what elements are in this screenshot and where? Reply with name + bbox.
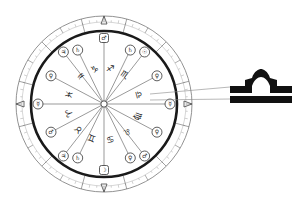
cusp-line <box>107 106 157 133</box>
gemini-sign-icon: ♊ <box>86 132 97 144</box>
cusp-marker-icon: ♂ <box>140 151 150 161</box>
cusp-marker-icon: ♀ <box>152 127 162 137</box>
cusp-marker-icon: ☉ <box>140 47 150 57</box>
cusp-marker-icon: ♄ <box>125 45 135 55</box>
pisces-sign-icon: ♓ <box>63 89 75 99</box>
svg-text:☿: ☿ <box>168 100 172 107</box>
cusp-marker-icon: ♄ <box>73 153 83 163</box>
zodiac-wheel: ☿♀☉♄♂♄♃♀☿♂♃♄☽♀♂♀ ♈♉♊♋♌♍♎♏♐♑♒♓ <box>0 0 305 203</box>
leo-sign-icon: ♌ <box>121 125 134 138</box>
svg-text:♀: ♀ <box>49 72 53 79</box>
cusp-line <box>107 76 157 103</box>
cusp-marker-icon: ♀ <box>125 153 135 163</box>
svg-text:♃: ♃ <box>61 152 66 159</box>
svg-text:☿: ☿ <box>36 100 40 107</box>
aries-sign-icon: ♈ <box>63 108 75 118</box>
cusp-line <box>51 76 101 103</box>
zodiac-diagram: ☿♀☉♄♂♄♃♀☿♂♃♄☽♀♂♀ ♈♉♊♋♌♍♎♏♐♑♒♓ <box>0 0 305 203</box>
cusp-marker-icon: ♃ <box>58 151 68 161</box>
center-hub <box>101 101 107 107</box>
svg-text:♃: ♃ <box>61 48 66 55</box>
cancer-sign-icon: ♋ <box>105 134 115 145</box>
cusp-marker-icon: ♀ <box>46 71 56 81</box>
svg-text:☉: ☉ <box>142 48 147 55</box>
svg-text:♄: ♄ <box>75 154 80 161</box>
cusp-marker-icon: ☿ <box>33 99 43 109</box>
cusp-marker-icon: ♄ <box>73 45 83 55</box>
capricorn-sign-icon: ♑ <box>89 63 99 75</box>
callout-leader-top <box>150 87 230 94</box>
svg-text:♀: ♀ <box>155 72 159 79</box>
cusp-marker-icon: ☿ <box>165 99 175 109</box>
virgo-sign-icon: ♍ <box>132 111 144 122</box>
cusp-marker-icon: ♂ <box>100 34 109 43</box>
svg-text:☽: ☽ <box>101 166 106 173</box>
svg-text:♂: ♂ <box>101 34 106 41</box>
cusp-marker-icon: ♂ <box>46 127 56 137</box>
svg-text:♄: ♄ <box>75 46 80 53</box>
svg-text:♀: ♀ <box>155 128 159 135</box>
cusp-marker-icon: ♀ <box>152 71 162 81</box>
libra-sign-icon: ♎ <box>133 89 145 99</box>
libra-symbol-icon <box>230 69 292 103</box>
taurus-sign-icon: ♉ <box>72 123 85 136</box>
svg-text:♂: ♂ <box>48 128 53 135</box>
svg-text:♀: ♀ <box>128 154 132 161</box>
cusp-marker-icon: ☽ <box>100 166 109 175</box>
svg-text:♄: ♄ <box>128 46 133 53</box>
aquarius-sign-icon: ♒ <box>75 70 88 83</box>
svg-text:♂: ♂ <box>142 152 147 159</box>
cusp-marker-icon: ♃ <box>58 47 68 57</box>
sagittarius-sign-icon: ♐ <box>105 63 115 74</box>
callout-leader-bottom <box>150 99 230 100</box>
